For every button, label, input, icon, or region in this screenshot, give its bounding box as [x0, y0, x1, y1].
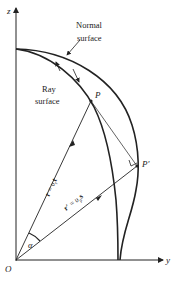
point-P-prime-label: P′ — [141, 159, 150, 169]
z-axis-label: z — [6, 6, 11, 16]
point-P — [89, 99, 92, 102]
segment-P-Pprime — [91, 101, 137, 166]
ray-surface-label-line1: Ray — [42, 84, 56, 94]
normal-surface-curve — [16, 49, 138, 260]
vector-r-prime-label: r′ = υps — [62, 192, 86, 214]
normal-surface-label-line2: surface — [77, 33, 102, 43]
normal-surface-label-line1: Normal — [76, 20, 103, 30]
point-P-prime — [135, 164, 138, 167]
svg-text:r = υrt: r = υrt — [43, 176, 60, 198]
angle-alpha-label: α — [28, 240, 33, 250]
point-P-label: P — [94, 90, 101, 100]
ray-normal-surface-diagram: z y O Normal surface Ray surface P P′ α … — [0, 0, 180, 283]
ray-surface-label-line2: surface — [35, 96, 60, 106]
vector-r-prime — [16, 166, 137, 260]
y-axis-label: y — [165, 255, 170, 265]
vector-r-label: r = υrt — [43, 176, 60, 198]
svg-text:r′ = υps: r′ = υps — [62, 192, 86, 214]
origin-label: O — [5, 264, 12, 274]
